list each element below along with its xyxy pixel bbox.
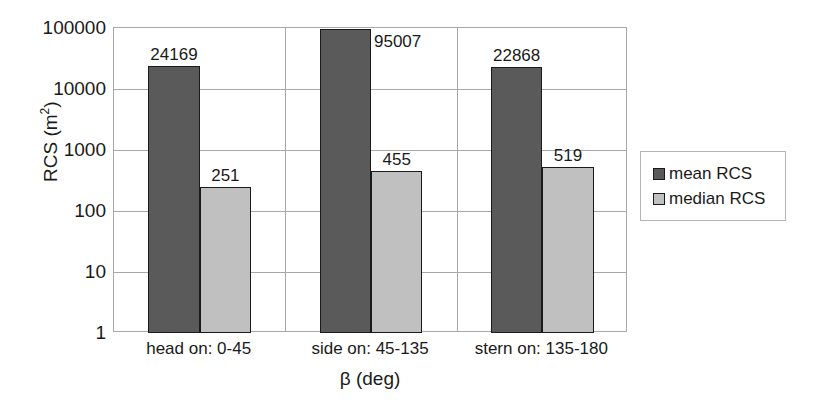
- legend-swatch-icon-median: [653, 193, 665, 205]
- bar-median-rcs-2: [542, 167, 593, 333]
- x-axis-tick-labels: head on: 0-45side on: 45-135stern on: 13…: [113, 340, 627, 366]
- category-divider: [457, 28, 458, 331]
- legend-swatch-icon-mean: [653, 168, 665, 180]
- bar-value-label: 22868: [493, 47, 540, 64]
- legend-item-median[interactable]: median RCS: [653, 186, 775, 211]
- bar-mean-rcs-1: [320, 29, 371, 333]
- plot-area: 241699500722868251455519: [113, 27, 627, 332]
- y-axis-tick-100000: 100000: [0, 18, 113, 37]
- legend-item-label: mean RCS: [669, 165, 752, 182]
- rcs-bar-chart-figure: RCS (m2) 100000100001000100101 241699500…: [0, 0, 815, 416]
- bar-value-label: 251: [211, 167, 239, 184]
- legend-item-label: median RCS: [669, 190, 765, 207]
- y-axis-tick-1: 1: [0, 323, 113, 342]
- y-axis-tick-10000: 10000: [0, 79, 113, 98]
- bar-value-label: 24169: [150, 46, 197, 63]
- bar-value-label: 455: [383, 151, 411, 168]
- y-axis-tick-labels: 100000100001000100101: [0, 0, 113, 416]
- y-axis-tick-100: 100: [0, 201, 113, 220]
- x-axis-tick-1: side on: 45-135: [311, 340, 428, 357]
- x-axis-title: β (deg): [113, 368, 627, 390]
- legend-item-mean[interactable]: mean RCS: [653, 161, 775, 186]
- bar-value-label: 95007: [374, 33, 421, 50]
- bar-mean-rcs-0: [148, 66, 199, 333]
- y-axis-tick-10: 10: [0, 262, 113, 281]
- bar-median-rcs-0: [200, 187, 251, 333]
- chart-legend: mean RCSmedian RCS: [640, 151, 786, 221]
- bar-value-label: 519: [554, 147, 582, 164]
- category-divider: [285, 28, 286, 331]
- x-axis-tick-0: head on: 0-45: [146, 340, 251, 357]
- bar-median-rcs-1: [371, 171, 422, 333]
- x-axis-tick-2: stern on: 135-180: [475, 340, 608, 357]
- y-axis-tick-1000: 1000: [0, 140, 113, 159]
- bar-mean-rcs-2: [491, 67, 542, 333]
